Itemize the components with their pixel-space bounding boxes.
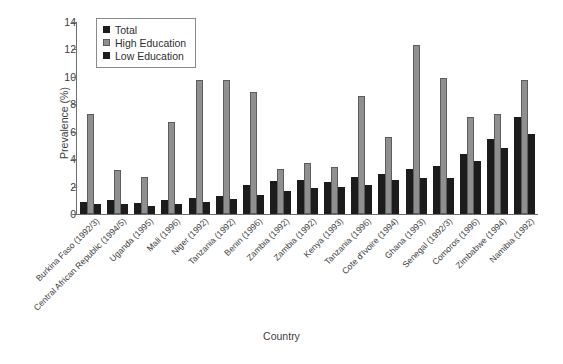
bar-low [175, 204, 182, 214]
y-tick-mark [72, 49, 76, 50]
bar-group [131, 22, 158, 214]
y-tick-mark [72, 159, 76, 160]
bar-high [494, 114, 501, 214]
bar-low [338, 187, 345, 214]
y-tick-label: 0 [42, 208, 76, 220]
bar-total [324, 182, 331, 214]
bar-total [378, 174, 385, 214]
bar-group [104, 22, 131, 214]
bar-total [406, 169, 413, 214]
bar-group [186, 22, 213, 214]
bar-total [134, 203, 141, 214]
bar-high [87, 114, 94, 214]
bar-low [420, 178, 427, 214]
bar-high [467, 117, 474, 214]
x-axis-title: Country [0, 330, 563, 342]
bar-low [94, 204, 101, 214]
bar-total [487, 139, 494, 214]
bar-low [501, 148, 508, 214]
bar-group [267, 22, 294, 214]
bar-low [474, 161, 481, 214]
bar-low [528, 134, 535, 214]
y-tick-label: 4 [42, 153, 76, 165]
bar-high [141, 177, 148, 214]
y-tick-mark [72, 132, 76, 133]
y-tick-label: 10 [42, 71, 76, 83]
bar-low [148, 206, 155, 214]
bar-total [351, 177, 358, 214]
bar-group [240, 22, 267, 214]
bar-high [168, 122, 175, 214]
bar-total [514, 117, 521, 214]
y-tick-mark [72, 77, 76, 78]
bar-group [484, 22, 511, 214]
bar-high [277, 169, 284, 214]
bar-low [447, 178, 454, 214]
prevalence-by-country-chart: Prevalence (%) 02468101214 Total High Ed… [0, 0, 563, 364]
bar-high [223, 80, 230, 214]
x-axis-tick-labels: Burkina Faso (1992/3)Central African Rep… [77, 216, 538, 326]
bar-low [203, 202, 210, 214]
bar-low [365, 185, 372, 214]
bar-high [440, 78, 447, 214]
x-axis-line [76, 214, 538, 215]
bar-group [294, 22, 321, 214]
bar-low [284, 191, 291, 214]
bar-low [257, 195, 264, 214]
bar-total [433, 166, 440, 214]
y-tick-mark [72, 22, 76, 23]
y-tick-label: 6 [42, 126, 76, 138]
bar-total [460, 154, 467, 214]
bar-high [196, 80, 203, 214]
bar-total [189, 198, 196, 214]
bar-low [121, 204, 128, 214]
bar-total [107, 200, 114, 214]
bar-total [243, 185, 250, 214]
bar-high [304, 163, 311, 214]
bar-group [430, 22, 457, 214]
bar-high [385, 137, 392, 214]
bar-total [80, 202, 87, 214]
y-tick-label: 14 [42, 16, 76, 28]
bar-series-container [77, 22, 538, 214]
bar-high [331, 167, 338, 214]
y-tick-label: 12 [42, 43, 76, 55]
bar-group [213, 22, 240, 214]
bar-high [521, 80, 528, 214]
bar-group [158, 22, 185, 214]
bar-total [270, 181, 277, 214]
bar-group [375, 22, 402, 214]
bar-high [413, 45, 420, 214]
bar-high [114, 170, 121, 214]
y-tick-mark [72, 187, 76, 188]
bar-total [297, 180, 304, 214]
bar-group [77, 22, 104, 214]
bar-total [216, 196, 223, 214]
bar-group [403, 22, 430, 214]
bar-group [321, 22, 348, 214]
bar-group [457, 22, 484, 214]
y-tick-label: 8 [42, 98, 76, 110]
bar-high [358, 96, 365, 214]
bar-low [311, 188, 318, 214]
bar-group [511, 22, 538, 214]
bar-low [392, 180, 399, 214]
y-tick-mark [72, 104, 76, 105]
bar-group [348, 22, 375, 214]
bar-low [230, 199, 237, 214]
bar-total [161, 200, 168, 214]
y-axis: Prevalence (%) 02468101214 [36, 22, 76, 214]
y-tick-mark [72, 214, 76, 215]
bar-high [250, 92, 257, 214]
y-tick-label: 2 [42, 181, 76, 193]
